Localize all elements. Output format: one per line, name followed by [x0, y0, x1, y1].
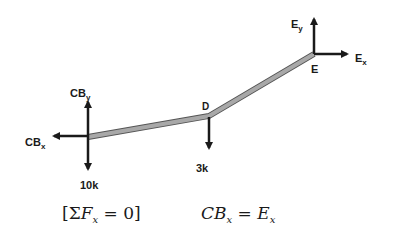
- ex-label: Ex: [355, 52, 367, 67]
- load-10k-label: 10k: [80, 179, 99, 191]
- cby-label: CBy: [70, 87, 91, 102]
- ey-label: Ey: [291, 18, 303, 33]
- point-e-label: E: [311, 63, 318, 75]
- cbx-label: CBx: [25, 136, 46, 151]
- point-d-label: D: [202, 101, 209, 112]
- free-body-diagram: CBy CBx 10k D 3k Ey Ex E [ΣFx = 0] CBx =…: [0, 0, 398, 240]
- result-equation: CBx = Ex: [201, 203, 276, 225]
- beam: [88, 54, 314, 137]
- equilibrium-condition: [ΣFx = 0]: [62, 203, 141, 225]
- load-3k-label: 3k: [196, 162, 209, 174]
